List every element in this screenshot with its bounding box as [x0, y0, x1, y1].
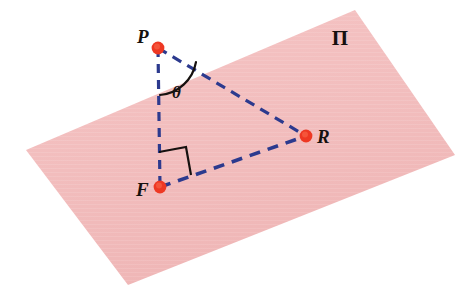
figure-svg: Π {} θ P F R — [0, 0, 470, 298]
point-r-dot-core — [302, 132, 308, 138]
point-f-dot-core — [156, 183, 162, 189]
angle-theta-label: θ — [172, 83, 181, 102]
point-p-dot-core — [154, 44, 160, 50]
plane-pi-label: Π — [332, 26, 348, 50]
point-p-label: P — [136, 26, 149, 47]
segment-p-f — [158, 48, 160, 187]
point-r-label: R — [316, 126, 330, 147]
geometry-figure: Π {} θ P F R — [0, 0, 470, 298]
plane-pi-texture — [26, 10, 455, 285]
point-f-label: F — [135, 179, 149, 200]
